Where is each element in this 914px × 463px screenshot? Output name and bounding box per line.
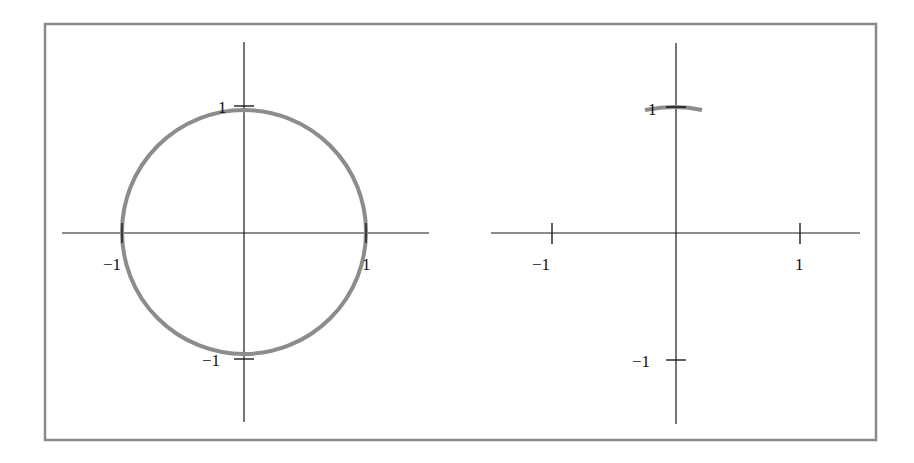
left-panel: −1 1 1 −1 [62,42,429,422]
left-label-x-neg: −1 [103,255,121,274]
left-label-y-neg: −1 [202,351,220,370]
figure: −1 1 1 −1 −1 1 1 −1 [0,0,914,463]
right-label-y-pos: 1 [648,100,657,119]
right-label-x-neg: −1 [532,255,550,274]
right-panel: −1 1 1 −1 [491,43,860,424]
figure-frame [45,24,876,440]
right-label-x-pos: 1 [795,255,804,274]
left-label-x-pos: 1 [362,255,371,274]
right-label-y-neg: −1 [632,352,650,371]
left-label-y-pos: 1 [218,98,227,117]
